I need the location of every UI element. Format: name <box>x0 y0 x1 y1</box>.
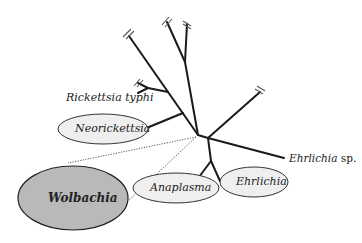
label-ehrlichia-sp-genus: Ehrlichia <box>289 152 337 164</box>
label-rickettsia-typhi: Rickettsia typhi <box>66 92 153 103</box>
label-ehrlichia-sp-suffix: sp. <box>337 152 356 164</box>
label-wolbachia: Wolbachia <box>48 192 118 204</box>
label-ehrlichia-sp: Ehrlichia sp. <box>289 153 356 164</box>
phylogenetic-tree-diagram: Rickettsia typhi Neorickettsia Wolbachia… <box>0 0 362 243</box>
label-ehrlichia: Ehrlichia <box>236 176 287 187</box>
branch-break-marks <box>123 17 265 94</box>
label-neorickettsia: Neorickettsia <box>75 123 150 134</box>
tree-graphic <box>0 0 362 243</box>
label-anaplasma: Anaplasma <box>150 182 211 193</box>
